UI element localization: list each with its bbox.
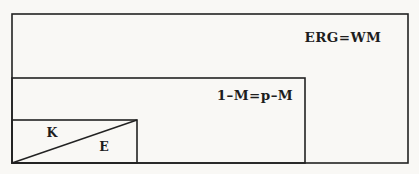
figure-canvas: ERG=WM 1–M=p–M K E bbox=[0, 0, 419, 174]
outer-rect-label: ERG=WM bbox=[305, 29, 382, 45]
lower-triangle-label: E bbox=[99, 139, 109, 154]
diagonal-line bbox=[12, 120, 137, 163]
upper-triangle-label: K bbox=[47, 125, 59, 140]
nested-rectangles-diagram: ERG=WM 1–M=p–M K E bbox=[0, 0, 419, 174]
middle-rect-label: 1–M=p–M bbox=[217, 87, 293, 103]
